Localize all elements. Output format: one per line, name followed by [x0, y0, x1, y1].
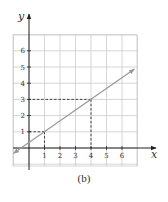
y-tick-label: 1 — [21, 128, 25, 136]
tick-labels: 123456123456 — [21, 47, 125, 160]
y-tick-label: 6 — [21, 47, 26, 55]
axis-ticks — [27, 51, 122, 150]
y-axis-label: y — [17, 10, 25, 23]
figure-caption: (b) — [0, 172, 168, 184]
x-tick-label: 2 — [58, 152, 62, 160]
y-tick-label: 5 — [21, 64, 25, 72]
x-axis-label: x — [151, 148, 158, 161]
y-tick-label: 2 — [21, 112, 25, 120]
x-tick-label: 6 — [120, 152, 125, 160]
y-tick-label: 4 — [21, 80, 26, 88]
x-tick-label: 4 — [89, 152, 94, 160]
x-tick-label: 1 — [42, 152, 46, 160]
x-tick-label: 5 — [104, 152, 108, 160]
y-tick-label: 3 — [21, 96, 25, 104]
x-tick-label: 3 — [73, 152, 77, 160]
coordinate-plane-figure: 123456123456 y x (b) — [0, 0, 168, 202]
line-series — [14, 69, 135, 153]
